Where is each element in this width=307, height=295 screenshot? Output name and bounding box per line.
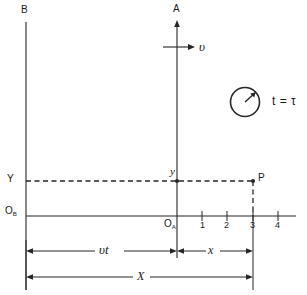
axis-tick-label-4: 4 — [275, 221, 280, 230]
axis-tick-label-2: 2 — [224, 221, 229, 230]
point-p-label: P — [258, 173, 265, 183]
dimension-label-X-total: X — [137, 270, 144, 282]
dim-arrow-X-right — [246, 274, 253, 280]
frame-a-label: A — [173, 4, 180, 14]
clock-time-label: t = τ — [272, 95, 296, 107]
frame-a-axis-arrowhead — [174, 20, 180, 27]
axis-tick-label-3: 3 — [250, 221, 255, 230]
velocity-arrow-head — [188, 44, 195, 50]
diagram-canvas — [0, 0, 307, 295]
dim-arrow-X-left — [26, 274, 33, 280]
point-y-on-a-axis — [175, 179, 179, 183]
dimension-label-vt: υt — [99, 243, 109, 256]
origin-b-label: OB — [5, 206, 17, 216]
point-p-marker — [251, 179, 255, 183]
dim-arrow-x-left — [177, 248, 184, 254]
frame-b-label: B — [21, 5, 28, 15]
origin-b-subscript: B — [13, 210, 17, 217]
y-axis-a-label: y — [170, 166, 175, 177]
axis-tick-label-1: 1 — [200, 221, 205, 230]
origin-a-label: OA — [164, 219, 176, 229]
origin-b-letter: O — [5, 205, 13, 216]
dim-arrow-vt-left — [26, 248, 33, 254]
dim-arrow-x-right — [246, 248, 253, 254]
dim-arrow-vt-right — [170, 248, 177, 254]
origin-a-letter: O — [164, 218, 172, 229]
dimension-label-x: x — [208, 244, 213, 256]
origin-a-subscript: A — [172, 223, 176, 230]
velocity-label: υ — [199, 40, 205, 53]
relativity-frames-figure: B A υ t = τ Y y P OB OA 1 2 3 4 υt x X — [0, 0, 307, 295]
y-axis-b-label: Y — [7, 174, 14, 184]
